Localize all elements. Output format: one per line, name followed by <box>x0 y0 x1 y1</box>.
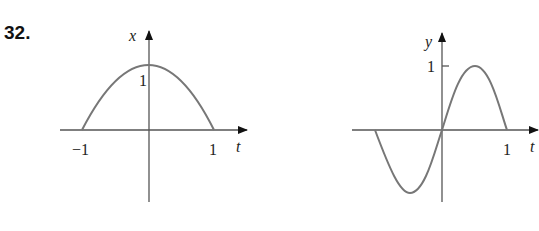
left-tick-pos1: 1 <box>209 141 217 158</box>
left-tick-neg1: −1 <box>72 141 89 158</box>
left-x-label: t <box>236 138 241 155</box>
right-tick-pos1: 1 <box>503 141 511 158</box>
right-y-label: y <box>423 33 433 51</box>
right-tick-y1: 1 <box>427 58 435 75</box>
graphs: x t −1 1 1 y t 1 1 <box>0 0 539 231</box>
right-x-label: t <box>530 138 535 155</box>
left-tick-y1: 1 <box>139 72 147 89</box>
left-curve <box>82 65 214 130</box>
left-y-label: x <box>128 27 136 44</box>
left-graph: x t −1 1 1 <box>60 27 247 202</box>
right-graph: y t 1 1 <box>352 33 538 202</box>
